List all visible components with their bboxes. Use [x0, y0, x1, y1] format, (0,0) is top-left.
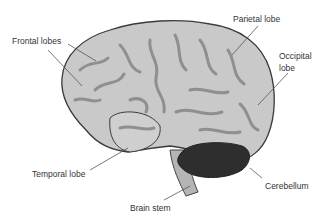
- label-occipital-line1: Occipital: [279, 51, 312, 61]
- label-parietal-lobe: Parietal lobe: [233, 14, 280, 24]
- label-cerebellum: Cerebellum: [265, 181, 308, 191]
- brain-diagram: Frontal lobes Parietal lobe Occipital lo…: [0, 0, 323, 219]
- label-brain-stem: Brain stem: [130, 203, 171, 213]
- label-occipital-line2: lobe: [279, 63, 295, 73]
- label-frontal-lobes: Frontal lobes: [12, 36, 61, 46]
- cerebellum-shape: [178, 143, 250, 178]
- label-temporal-lobe: Temporal lobe: [32, 169, 85, 179]
